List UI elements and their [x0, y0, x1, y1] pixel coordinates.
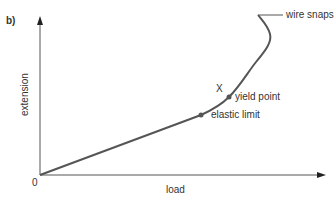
wire-snaps-label: wire snaps: [286, 9, 334, 20]
y-axis-arrow-icon: [37, 16, 43, 25]
origin-label: 0: [32, 177, 38, 188]
x-axis-arrow-icon: [317, 172, 326, 178]
panel-label: b): [6, 15, 15, 26]
y-axis-label: extension: [19, 73, 30, 116]
yield-point-label: yield point: [235, 91, 280, 102]
elastic-limit-point: [199, 113, 204, 118]
elastic-limit-label: elastic limit: [211, 109, 260, 120]
x-marker-label: X: [216, 83, 223, 94]
x-axis-label: load: [166, 184, 185, 195]
yield-point-marker: [227, 95, 232, 100]
